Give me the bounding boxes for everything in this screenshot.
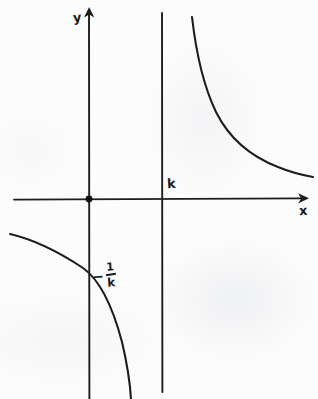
origin-point-marker bbox=[86, 196, 93, 203]
curve-left-branch bbox=[10, 234, 131, 399]
asymptote-label-k: k bbox=[167, 177, 176, 190]
curve-right-branch bbox=[192, 17, 313, 177]
y-axis-label: y bbox=[73, 11, 82, 25]
plot-canvas bbox=[0, 0, 318, 399]
x-axis-label: x bbox=[299, 204, 308, 217]
minus-sign-glyph: − bbox=[92, 269, 105, 284]
hyperbola-figure: y x k − 1 k bbox=[0, 0, 318, 399]
fraction-one-over-k: 1 k bbox=[105, 261, 117, 288]
x-axis-line bbox=[14, 198, 301, 199]
fraction-denominator: k bbox=[106, 275, 117, 289]
y-intercept-label: − 1 k bbox=[91, 261, 117, 289]
